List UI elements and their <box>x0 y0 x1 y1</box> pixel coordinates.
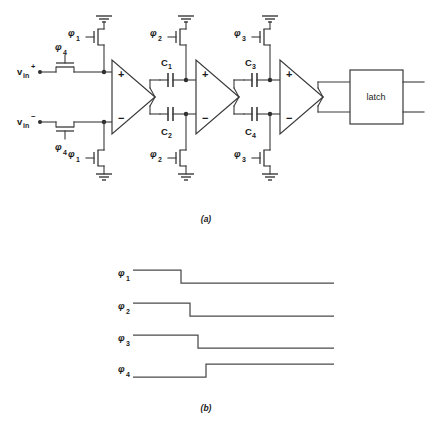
svg-text:in: in <box>23 122 29 129</box>
svg-text:in: in <box>23 72 29 79</box>
transistor-phi1-top <box>86 29 104 72</box>
circuit-figure-svg: φ 1 v in + φ 4 v in <box>0 0 434 430</box>
label-phi3-top: φ 3 <box>234 27 246 42</box>
label-phi3-bottom: φ 3 <box>234 148 246 163</box>
svg-text:φ: φ <box>150 27 157 38</box>
svg-text:φ: φ <box>118 300 125 311</box>
amplifier-1: + − <box>112 60 160 134</box>
svg-text:φ: φ <box>68 27 75 38</box>
capacitor-C4: C 4 <box>244 107 270 139</box>
label-phi2-bottom: φ 2 <box>150 148 162 163</box>
svg-text:+: + <box>286 68 292 80</box>
schematic-group: φ 1 v in + φ 4 v in <box>17 16 424 224</box>
amplifier-2: + − <box>196 60 244 134</box>
svg-text:3: 3 <box>126 340 130 347</box>
transistor-phi2-bottom <box>168 150 186 174</box>
label-phi4-bottom: φ 4 <box>55 141 67 156</box>
svg-text:−: − <box>202 112 208 124</box>
svg-text:3: 3 <box>242 35 246 42</box>
svg-text:φ: φ <box>55 41 62 52</box>
transistor-phi2-top <box>168 29 186 80</box>
capacitor-C1: C 1 <box>160 57 186 87</box>
svg-text:4: 4 <box>63 49 67 56</box>
svg-text:4: 4 <box>63 149 67 156</box>
waveform-phi4: φ 4 <box>118 363 334 378</box>
svg-text:−: − <box>31 112 36 121</box>
waveform-phi2: φ 2 <box>118 300 334 316</box>
transistor-phi3-top <box>252 29 270 80</box>
transistor-phi1-bottom <box>86 150 104 174</box>
svg-text:C: C <box>161 57 168 68</box>
svg-text:2: 2 <box>158 156 162 163</box>
svg-text:1: 1 <box>126 275 130 282</box>
waveform-phi3: φ 3 <box>118 332 334 348</box>
svg-text:4: 4 <box>126 371 130 378</box>
amplifier-3: + − <box>280 60 350 134</box>
caption-b: (b) <box>201 403 212 413</box>
svg-text:φ: φ <box>118 363 125 374</box>
svg-text:1: 1 <box>76 156 80 163</box>
svg-text:C: C <box>245 57 252 68</box>
svg-text:2: 2 <box>168 132 172 139</box>
ground-top-stage3 <box>262 16 278 29</box>
svg-text:+: + <box>202 68 208 80</box>
svg-text:2: 2 <box>158 35 162 42</box>
svg-text:φ: φ <box>234 148 241 159</box>
svg-text:1: 1 <box>168 63 172 70</box>
svg-text:φ: φ <box>68 148 75 159</box>
svg-text:φ: φ <box>55 141 62 152</box>
figure-root: φ 1 v in + φ 4 v in <box>0 0 434 430</box>
label-phi4-top: φ 4 <box>55 41 67 56</box>
transistor-phi4-bottom <box>56 122 104 139</box>
capacitor-C2: C 2 <box>160 107 186 139</box>
input-vin-plus: v in + <box>17 62 56 79</box>
svg-text:3: 3 <box>242 156 246 163</box>
svg-text:φ: φ <box>118 267 125 278</box>
ground-bottom-stage2 <box>178 174 194 180</box>
ground-top-stage1 <box>96 16 112 29</box>
caption-a: (a) <box>201 214 212 224</box>
svg-text:−: − <box>118 112 124 124</box>
svg-text:C: C <box>161 126 168 137</box>
svg-text:C: C <box>245 126 252 137</box>
input-vin-minus: v in − <box>17 112 56 129</box>
svg-text:+: + <box>118 68 124 80</box>
capacitor-C3: C 3 <box>244 57 270 87</box>
svg-text:φ: φ <box>118 332 125 343</box>
label-phi2-top: φ 2 <box>150 27 162 42</box>
timing-group: φ 1 φ 2 φ 3 φ 4 (b) <box>118 267 334 413</box>
svg-text:φ: φ <box>234 27 241 38</box>
svg-text:φ: φ <box>150 148 157 159</box>
svg-text:1: 1 <box>76 35 80 42</box>
svg-text:4: 4 <box>252 132 256 139</box>
ground-top-stage2 <box>178 16 194 29</box>
label-phi1-bottom: φ 1 <box>68 148 80 163</box>
svg-text:−: − <box>286 112 292 124</box>
svg-text:latch: latch <box>366 92 385 102</box>
svg-text:3: 3 <box>252 63 256 70</box>
ground-bottom-stage3 <box>262 174 278 180</box>
latch-block: latch <box>350 70 424 124</box>
svg-text:2: 2 <box>126 308 130 315</box>
transistor-phi4-top <box>56 55 104 72</box>
waveform-phi1: φ 1 <box>118 267 334 283</box>
svg-text:+: + <box>31 62 36 71</box>
ground-bottom-stage1 <box>96 174 112 180</box>
transistor-phi3-bottom <box>252 150 270 174</box>
label-phi1-top: φ 1 <box>68 27 80 42</box>
